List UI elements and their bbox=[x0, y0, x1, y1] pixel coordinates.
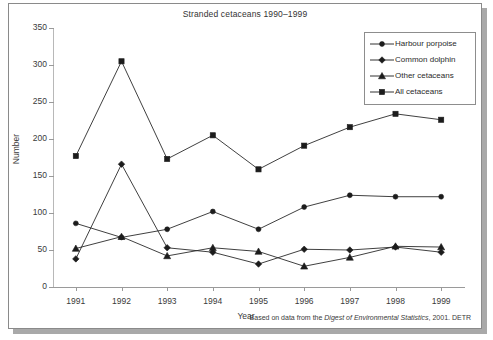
chart-title: Stranded cetaceans 1990–1999 bbox=[9, 9, 481, 19]
x-tick-mark bbox=[441, 287, 442, 291]
source-note-suffix: , 2001. DETR bbox=[429, 314, 471, 321]
x-tick-mark bbox=[122, 287, 123, 291]
legend-label: All cetaceans bbox=[395, 88, 443, 96]
source-note-prefix: Based on data from the bbox=[250, 314, 325, 321]
y-tick-label: 300 bbox=[13, 60, 47, 69]
legend-item-other-cetaceans[interactable]: Other cetaceans bbox=[369, 68, 471, 84]
y-tick-label-wrap: 50 bbox=[9, 245, 47, 255]
y-axis-line bbox=[53, 28, 54, 287]
y-tick-label-wrap: 0 bbox=[9, 282, 47, 292]
legend-square-marker-icon bbox=[369, 86, 395, 98]
y-tick-mark bbox=[49, 287, 54, 288]
y-tick-label-wrap: 100 bbox=[9, 208, 47, 218]
legend-label: Common dolphin bbox=[395, 56, 455, 64]
y-tick-mark bbox=[49, 213, 54, 214]
y-tick-label: 50 bbox=[13, 245, 47, 254]
legend-item-all-cetaceans[interactable]: All cetaceans bbox=[369, 84, 471, 100]
y-axis-title: Number bbox=[11, 114, 21, 184]
chart-legend: Harbour porpoiseCommon dolphinOther ceta… bbox=[364, 32, 476, 105]
y-tick-label-wrap: 350 bbox=[9, 23, 47, 33]
y-tick-label: 250 bbox=[13, 97, 47, 106]
x-tick-mark bbox=[304, 287, 305, 291]
figure-root: Stranded cetaceans 1990–1999 05010015020… bbox=[0, 0, 493, 340]
y-tick-mark bbox=[49, 176, 54, 177]
x-tick-mark bbox=[396, 287, 397, 291]
y-tick-label: 0 bbox=[13, 282, 47, 291]
y-tick-mark bbox=[49, 250, 54, 251]
x-tick-mark bbox=[213, 287, 214, 291]
y-tick-mark bbox=[49, 139, 54, 140]
legend-diamond-marker-icon bbox=[369, 54, 395, 66]
y-tick-mark bbox=[49, 65, 54, 66]
x-tick-label: 1999 bbox=[411, 296, 471, 306]
figure-frame: Stranded cetaceans 1990–1999 05010015020… bbox=[8, 3, 482, 329]
source-note: Based on data from the Digest of Environ… bbox=[250, 314, 471, 321]
series-other-cetaceans bbox=[72, 233, 444, 269]
y-tick-label: 100 bbox=[13, 208, 47, 217]
legend-triangle-marker-icon bbox=[369, 70, 395, 82]
series-harbour-porpoise bbox=[73, 193, 443, 240]
x-tick-mark bbox=[76, 287, 77, 291]
y-tick-mark bbox=[49, 28, 54, 29]
legend-item-harbour-porpoise[interactable]: Harbour porpoise bbox=[369, 36, 471, 52]
x-tick-mark bbox=[167, 287, 168, 291]
x-tick-mark bbox=[259, 287, 260, 291]
series-common-dolphin bbox=[73, 161, 445, 267]
legend-item-common-dolphin[interactable]: Common dolphin bbox=[369, 52, 471, 68]
y-tick-label: 350 bbox=[13, 23, 47, 32]
legend-label: Harbour porpoise bbox=[395, 40, 457, 48]
legend-label: Other cetaceans bbox=[395, 72, 454, 80]
x-tick-mark bbox=[350, 287, 351, 291]
y-tick-mark bbox=[49, 102, 54, 103]
legend-circle-marker-icon bbox=[369, 38, 395, 50]
y-tick-label-wrap: 300 bbox=[9, 60, 47, 70]
y-tick-label-wrap: 250 bbox=[9, 97, 47, 107]
source-note-publication: Digest of Environmental Statistics bbox=[324, 314, 428, 321]
